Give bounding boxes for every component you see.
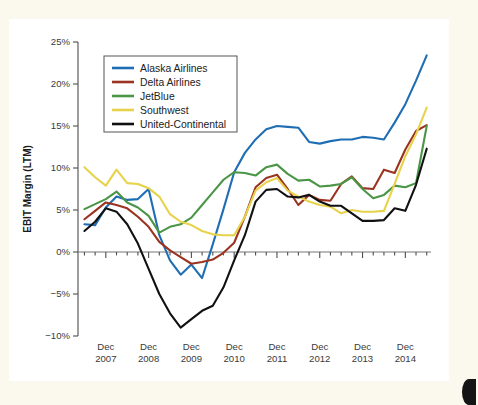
x-tick-label-month: Dec [354,341,371,352]
x-tick-label-month: Dec [268,341,285,352]
x-tick-label-month: Dec [97,341,114,352]
page-edge-mark [462,379,476,405]
x-tick-label-year: 2012 [309,353,330,364]
x-tick-label-year: 2014 [395,353,417,364]
legend-label-jetblue: JetBlue [140,91,175,102]
y-axis-title: EBIT Margin (LTM) [22,145,33,233]
x-tick-label-month: Dec [226,341,243,352]
x-tick-label-year: 2009 [181,353,202,364]
x-tick-label-year: 2008 [138,353,159,364]
x-tick-label-month: Dec [311,341,328,352]
x-tick-label-month: Dec [140,341,157,352]
x-tick-label-month: Dec [183,341,200,352]
legend-label-delta-airlines: Delta Airlines [140,77,201,88]
chart-page: 25%20%15%10%5%0%−5%−10%Dec2007Dec2008Dec… [0,0,478,405]
x-tick-label-year: 2011 [267,353,288,364]
y-tick-label: 25% [51,36,71,47]
y-tick-label: −5% [51,288,71,299]
chart-card: 25%20%15%10%5%0%−5%−10%Dec2007Dec2008Dec… [9,19,449,381]
y-tick-label: −10% [45,330,70,341]
y-tick-label: 5% [56,204,70,215]
y-tick-label: 10% [51,162,71,173]
series-line-delta-airlines [84,125,426,264]
x-tick-label-year: 2007 [95,353,116,364]
x-tick-label-year: 2013 [352,353,373,364]
x-tick-label-month: Dec [397,341,414,352]
y-tick-label: 15% [51,120,71,131]
legend-label-alaska-airlines: Alaska Airlines [140,63,208,74]
y-tick-label: 0% [56,246,70,257]
legend-label-southwest: Southwest [140,105,189,116]
plot-area: 25%20%15%10%5%0%−5%−10%Dec2007Dec2008Dec… [22,36,431,364]
x-tick-label-year: 2010 [224,353,245,364]
legend-label-united-continental: United-Continental [140,119,226,130]
ebit-margin-line-chart: 25%20%15%10%5%0%−5%−10%Dec2007Dec2008Dec… [9,19,449,381]
y-tick-label: 20% [51,78,71,89]
series-line-jetblue [84,126,426,233]
